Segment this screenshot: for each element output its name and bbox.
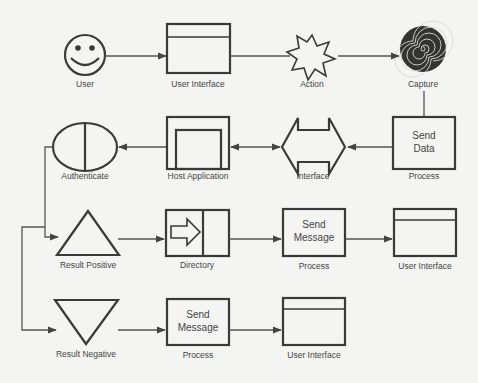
node-label: Interface <box>296 171 329 181</box>
smiley-face-icon <box>65 35 105 75</box>
node-result-positive: Result Positive <box>57 211 119 270</box>
node-label: Action <box>300 79 324 89</box>
process-text-line2: Message <box>178 322 219 333</box>
node-label: Host Application <box>168 171 229 181</box>
double-arrow-icon <box>282 118 345 174</box>
node-label: Process <box>409 171 440 181</box>
node-user: User <box>65 35 105 89</box>
node-authenticate: Authenticate <box>53 123 117 181</box>
node-host-application: Host Application <box>167 117 229 181</box>
node-label: Capture <box>408 79 439 89</box>
node-label: Process <box>299 261 330 271</box>
process-text-line1: Send <box>186 309 209 320</box>
node-send-data: Send Data Process <box>393 117 455 181</box>
node-interface: Interface <box>282 118 345 181</box>
split-ellipse-icon <box>53 123 117 171</box>
process-text-line1: Send <box>302 219 325 230</box>
node-label: User Interface <box>171 79 225 89</box>
node-action: Action <box>287 35 335 89</box>
window-icon <box>167 24 230 73</box>
node-user-interface-2: User Interface <box>394 209 456 271</box>
star-icon <box>287 35 335 80</box>
edge-authenticate-negative <box>22 227 56 330</box>
node-user-interface-3: User Interface <box>283 298 345 360</box>
window-icon <box>283 298 345 345</box>
triangle-up-icon <box>57 211 119 255</box>
process-text-line1: Send <box>412 130 435 141</box>
edge-authenticate-positive <box>45 147 58 237</box>
nested-box-icon <box>167 117 229 169</box>
node-label: Authenticate <box>61 171 109 181</box>
window-icon <box>394 209 456 256</box>
spiral-icon <box>395 21 453 77</box>
node-label: Result Positive <box>60 260 116 270</box>
node-label: User Interface <box>287 350 341 360</box>
process-text-line2: Message <box>294 232 335 243</box>
node-label: User Interface <box>398 261 452 271</box>
node-result-negative: Result Negative <box>55 300 118 359</box>
node-capture: Capture <box>395 21 453 89</box>
triangle-down-icon <box>55 300 118 344</box>
node-send-message-1: Send Message Process <box>283 209 345 271</box>
node-label: Result Negative <box>56 349 116 359</box>
directory-arrow-box-icon <box>166 210 229 256</box>
node-label: Process <box>183 350 214 360</box>
node-label: Directory <box>180 260 215 270</box>
process-text-line2: Data <box>413 143 435 154</box>
flow-diagram: User User Interface Action Capture Authe… <box>0 0 478 383</box>
node-user-interface-1: User Interface <box>167 24 230 89</box>
node-send-message-2: Send Message Process <box>167 299 229 360</box>
node-directory: Directory <box>166 210 229 270</box>
node-label: User <box>76 79 94 89</box>
